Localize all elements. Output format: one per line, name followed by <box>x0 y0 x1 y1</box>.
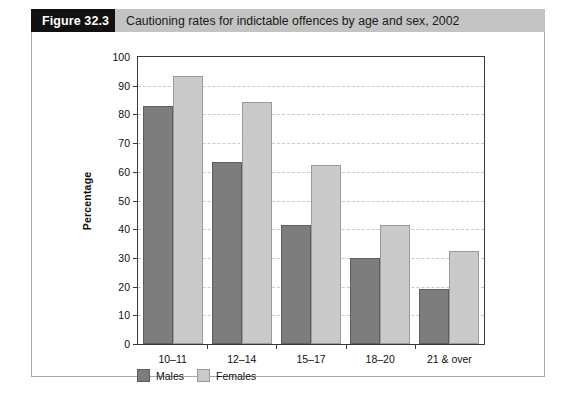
y-axis-tick <box>133 344 138 345</box>
y-axis-tick-label: 20 <box>118 281 130 293</box>
y-axis-tick-label: 50 <box>118 195 130 207</box>
bar-females-2 <box>311 165 341 344</box>
bar-females-0 <box>173 76 203 344</box>
y-axis-tick <box>133 287 138 288</box>
y-axis-tick <box>133 258 138 259</box>
x-axis-tick <box>346 344 347 349</box>
x-axis-tick-label: 15–17 <box>296 353 325 365</box>
bar-males-2 <box>281 225 311 344</box>
chart-legend: MalesFemales <box>137 369 256 382</box>
y-axis-tick-label: 30 <box>118 252 130 264</box>
y-axis-tick <box>133 315 138 316</box>
plot-area: 010203040506070809010010–1112–1415–1718–… <box>137 56 485 345</box>
y-axis-tick <box>133 201 138 202</box>
figure-container: Figure 32.3 Cautioning rates for indicta… <box>0 0 576 409</box>
x-axis-tick <box>207 344 208 349</box>
bar-females-3 <box>380 225 410 344</box>
figure-number: Figure 32.3 <box>31 9 115 32</box>
legend-swatch-males-icon <box>137 369 150 382</box>
y-axis-tick-label: 100 <box>112 51 130 63</box>
y-axis-tick <box>133 172 138 173</box>
y-axis-tick-label: 40 <box>118 223 130 235</box>
x-axis-tick-label: 21 & over <box>427 353 472 365</box>
y-axis-title-label: Percentage <box>81 171 93 230</box>
y-axis-title: Percentage <box>80 56 94 345</box>
bar-females-4 <box>449 251 479 344</box>
bar-males-4 <box>419 289 449 344</box>
figure-frame: Percentage 010203040506070809010010–1112… <box>31 32 545 377</box>
bar-males-0 <box>143 106 173 344</box>
legend-item-females[interactable]: Females <box>197 369 256 382</box>
y-axis-tick-label: 10 <box>118 309 130 321</box>
legend-swatch-females-icon <box>197 369 210 382</box>
y-axis-tick <box>133 86 138 87</box>
bar-males-3 <box>350 258 380 344</box>
legend-label: Males <box>156 370 184 382</box>
bar-chart: Percentage 010203040506070809010010–1112… <box>32 32 546 377</box>
y-axis-tick-label: 70 <box>118 137 130 149</box>
y-axis-tick-label: 90 <box>118 80 130 92</box>
y-axis-tick <box>133 143 138 144</box>
y-axis-tick-label: 60 <box>118 166 130 178</box>
x-axis-tick <box>415 344 416 349</box>
legend-label: Females <box>216 370 256 382</box>
figure-title-banner: Figure 32.3 Cautioning rates for indicta… <box>31 9 545 32</box>
bar-females-1 <box>242 102 272 345</box>
y-axis-tick-label: 80 <box>118 108 130 120</box>
y-axis-tick <box>133 229 138 230</box>
x-axis-tick-label: 12–14 <box>227 353 256 365</box>
bar-males-1 <box>212 162 242 344</box>
x-axis-tick <box>276 344 277 349</box>
x-axis-tick-label: 10–11 <box>158 353 186 365</box>
y-axis-tick <box>133 114 138 115</box>
x-axis-tick-label: 18–20 <box>366 353 395 365</box>
y-axis-tick-label: 0 <box>124 338 130 350</box>
legend-item-males[interactable]: Males <box>137 369 184 382</box>
figure-caption: Cautioning rates for indictable offences… <box>115 9 545 32</box>
